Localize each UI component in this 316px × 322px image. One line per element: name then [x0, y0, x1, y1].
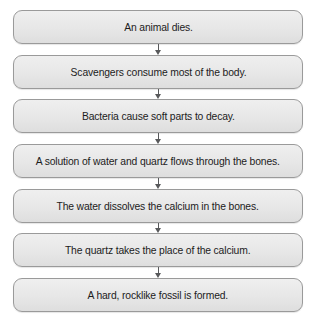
- flowchart-step-4: A solution of water and quartz flows thr…: [13, 144, 303, 178]
- arrow-head-icon: [155, 184, 161, 189]
- flowchart-step-5: The water dissolves the calcium in the b…: [13, 189, 303, 223]
- flowchart-arrow-6: [13, 267, 303, 278]
- arrow-head-icon: [155, 50, 161, 55]
- flowchart-diagram: An animal dies. Scavengers consume most …: [0, 0, 316, 322]
- flowchart-step-6: The quartz takes the place of the calciu…: [13, 233, 303, 267]
- flowchart-step-2-label: Scavengers consume most of the body.: [70, 66, 246, 78]
- flowchart-step-1: An animal dies.: [13, 10, 303, 44]
- flowchart-step-2: Scavengers consume most of the body.: [13, 55, 303, 89]
- flowchart-step-7-label: A hard, rocklike fossil is formed.: [88, 289, 229, 301]
- flowchart-step-4-label: A solution of water and quartz flows thr…: [36, 155, 280, 167]
- flowchart-step-3-label: Bacteria cause soft parts to decay.: [82, 110, 235, 122]
- flowchart-arrow-1: [13, 44, 303, 55]
- flowchart-arrow-2: [13, 89, 303, 100]
- flowchart-arrow-5: [13, 223, 303, 234]
- flowchart-arrow-3: [13, 133, 303, 144]
- flowchart-step-1-label: An animal dies.: [124, 21, 193, 33]
- flowchart-step-5-label: The water dissolves the calcium in the b…: [57, 200, 259, 212]
- flowchart-arrow-4: [13, 178, 303, 189]
- flowchart-step-7: A hard, rocklike fossil is formed.: [13, 278, 303, 312]
- flowchart-step-3: Bacteria cause soft parts to decay.: [13, 99, 303, 133]
- flowchart-step-6-label: The quartz takes the place of the calciu…: [65, 244, 250, 256]
